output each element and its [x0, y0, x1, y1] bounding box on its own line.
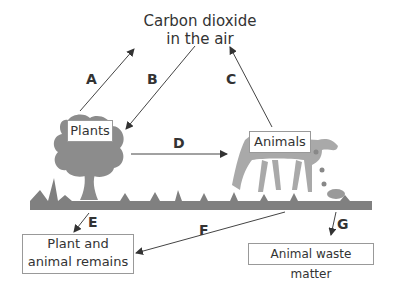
- node-animals: Animals: [249, 131, 311, 153]
- arrow-b: [126, 46, 195, 129]
- node-remains-line2: animal remains: [23, 253, 133, 271]
- label-d: D: [173, 135, 185, 151]
- label-c: C: [226, 71, 236, 87]
- ground: [30, 201, 372, 210]
- node-air-line1: Carbon dioxide: [110, 12, 290, 30]
- label-f: F: [199, 222, 209, 238]
- node-animal-waste: Animal waste matter: [248, 243, 374, 265]
- label-a: A: [86, 71, 97, 87]
- node-plants: Plants: [67, 120, 113, 142]
- label-g: G: [337, 216, 349, 232]
- node-carbon-dioxide-air: Carbon dioxide in the air: [110, 12, 290, 48]
- node-air-line2: in the air: [110, 30, 290, 48]
- arrow-g: [331, 212, 336, 235]
- node-plant-animal-remains: Plant and animal remains: [22, 234, 134, 274]
- label-e: E: [88, 214, 98, 230]
- label-b: B: [147, 71, 158, 87]
- arrow-e: [74, 213, 89, 232]
- arrow-c: [230, 47, 272, 127]
- node-remains-line1: Plant and: [23, 235, 133, 253]
